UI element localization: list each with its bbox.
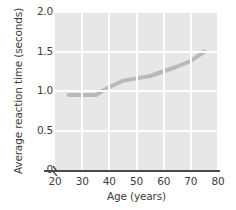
- x-tick-label: 70: [179, 175, 203, 188]
- x-tick-label: 30: [70, 175, 94, 188]
- x-tick-label: 20: [43, 175, 67, 188]
- grid-line-horizontal: [55, 51, 218, 53]
- x-axis-label: Age (years): [55, 190, 218, 203]
- y-tick-label: 1.5: [27, 46, 53, 57]
- reaction-time-line-chart: Average reaction time (seconds) 00.51.01…: [0, 0, 236, 210]
- x-axis-spine: [44, 170, 220, 172]
- grid-line-horizontal: [55, 12, 218, 13]
- x-tick-label: 60: [152, 175, 176, 188]
- y-tick-label: 1.0: [27, 85, 53, 96]
- x-tick-label: 40: [97, 175, 121, 188]
- grid-line-horizontal: [55, 130, 218, 132]
- plot-area: [55, 12, 218, 170]
- x-axis-tick-labels: 20304050607080: [0, 175, 236, 189]
- y-tick-label: 2.0: [27, 6, 53, 17]
- y-tick-label: 0.5: [27, 125, 53, 136]
- grid-line-horizontal: [55, 90, 218, 92]
- x-tick-label: 80: [206, 175, 230, 188]
- x-tick-label: 50: [125, 175, 149, 188]
